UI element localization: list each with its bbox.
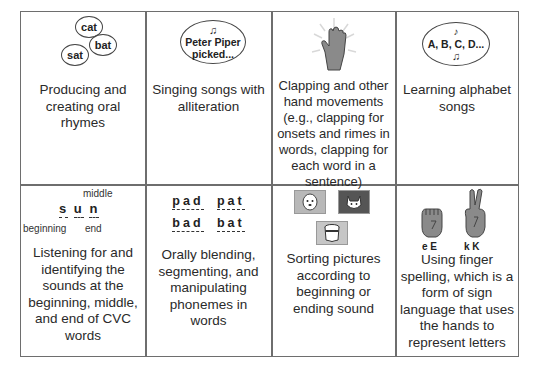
music-note-icon: ♪	[454, 26, 459, 38]
clapping-hand-icon	[308, 18, 360, 74]
cell-finger-spelling: e E k K Using finger spelling, which is …	[396, 185, 518, 357]
cell-oral-rhymes: cat bat sat Producing and creating oral …	[21, 12, 145, 184]
caption: Producing and creating oral rhymes	[25, 82, 141, 132]
letter: n	[89, 201, 99, 218]
letter: s	[59, 201, 68, 218]
label-beginning: beginning	[23, 223, 66, 234]
activities-table: cat bat sat Producing and creating oral …	[20, 11, 519, 357]
cvc-word: s u n	[59, 201, 99, 218]
cell-phonemes: pad pat bad bat Orally blending, segment…	[146, 185, 271, 357]
caption: Clapping and other hand movements (e.g.,…	[276, 78, 391, 190]
speech-bubble: ♪ A, B, C, D... ♫	[422, 22, 490, 66]
bubble-text: bat	[95, 39, 112, 51]
word-row: bad bat	[146, 213, 271, 232]
label-middle: middle	[83, 188, 112, 199]
cell-alphabet-songs: ♪ A, B, C, D... ♫ Learning alphabet song…	[396, 12, 518, 184]
cell-clapping: Clapping and other hand movements (e.g.,…	[272, 12, 395, 184]
cell-alliteration: ♫ Peter Piper picked... Singing songs wi…	[146, 12, 271, 184]
caption: Learning alphabet songs	[400, 82, 514, 115]
speech-bubble: sat	[61, 44, 89, 66]
bubble-text: cat	[81, 21, 97, 33]
dog-picture-icon	[294, 190, 326, 214]
hand-label-e: e E	[422, 241, 437, 252]
caption: Using finger spelling, which is a form o…	[396, 252, 518, 351]
cell-cvc-words: middle s u n beginning end Listening for…	[21, 185, 145, 357]
bubble-text: Peter Piper	[185, 36, 240, 48]
cell-sorting-pictures: Sorting pictures according to beginning …	[272, 185, 395, 357]
caption: Singing songs with alliteration	[150, 82, 267, 115]
sign-k-hand-icon	[460, 187, 490, 239]
bubble-text: picked...	[192, 48, 234, 60]
caption: Listening for and identifying the sounds…	[25, 245, 141, 344]
bucket-picture-icon	[316, 221, 348, 245]
hand-label-k: k K	[464, 241, 480, 252]
caption: Sorting pictures according to beginning …	[276, 251, 391, 317]
word: bat	[217, 216, 245, 232]
speech-bubble: bat	[89, 34, 117, 56]
word: bad	[172, 216, 203, 232]
sign-e-hand-icon	[418, 203, 446, 239]
word: pad	[172, 194, 203, 210]
music-note-icon: ♫	[209, 24, 217, 36]
label-end: end	[85, 223, 102, 234]
caption: Orally blending, segmenting, and manipul…	[150, 247, 267, 330]
bubble-text: sat	[67, 49, 83, 61]
bubble-text: A, B, C, D...	[428, 38, 485, 50]
word: pat	[217, 194, 245, 210]
cat-picture-icon	[338, 190, 370, 214]
word-row: pad pat	[146, 191, 271, 210]
letter: u	[74, 201, 84, 218]
speech-bubble: ♫ Peter Piper picked...	[180, 20, 246, 64]
music-note-icon: ♫	[452, 50, 460, 62]
